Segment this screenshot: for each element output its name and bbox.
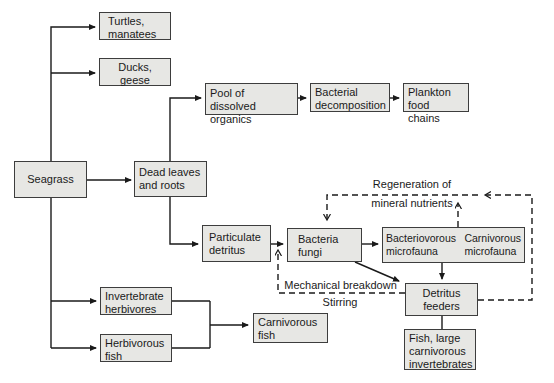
node-turtles-manatees: Turtles, manatees <box>99 12 171 40</box>
node-invertebrate-herbivores: Invertebrate herbivores <box>100 287 172 315</box>
node-particulate-detritus: Particulate detritus <box>202 225 271 262</box>
node-fish-large-carnivorous-invertebrates: Fish, large carnivorous invertebrates <box>404 329 476 370</box>
label-stirring: Stirring <box>280 296 400 309</box>
node-dead-leaves-roots: Dead leaves and roots <box>134 161 207 197</box>
node-carnivorous-fish: Carnivorous fish <box>253 313 328 343</box>
node-bacterial-decomposition: Bacterial decomposition <box>310 83 390 112</box>
label-mechanical-breakdown: Mechanical breakdown <box>278 279 403 292</box>
edge-seagrass-to-turtles <box>51 27 95 161</box>
node-detritus-feeders: Detritus feeders <box>405 283 478 316</box>
node-ducks-geese: Ducks, geese <box>99 58 171 86</box>
node-bacteria-fungi: Bacteria fungi <box>287 228 362 262</box>
node-seagrass: Seagrass <box>14 161 87 198</box>
label-regeneration-of-mineral-nutrients: Regeneration of mineral nutrients <box>342 175 482 213</box>
node-herbivorous-fish: Herbivorous fish <box>100 334 172 362</box>
node-pool-dissolved-organics: Pool of dissolved organics <box>205 83 298 115</box>
edge-dead-leaves-to-pool <box>170 98 201 161</box>
carnivorous-microfauna-label: Carnivorous microfauna <box>464 232 521 258</box>
edge-dead-leaves-to-particulate <box>170 197 198 244</box>
bacteriovorous-microfauna-label: Bacteriovorous microfauna <box>386 232 456 258</box>
node-plankton-food-chains: Plankton food chains <box>403 83 469 112</box>
diagram-canvas: Turtles, manatees Ducks, geese Pool of d… <box>0 0 554 383</box>
node-microfauna: Bacteriovorous microfauna Carnivorous mi… <box>382 227 525 263</box>
